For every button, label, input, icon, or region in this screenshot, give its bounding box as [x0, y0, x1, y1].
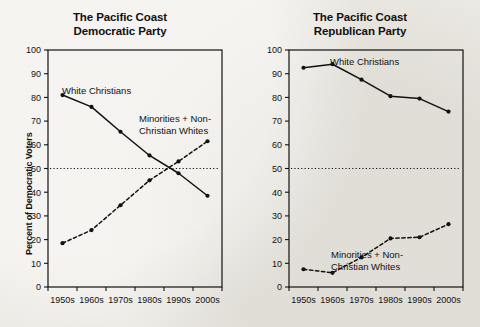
annotation-minorities-line2: Christian Whites [139, 125, 208, 136]
y-tick-label: 0 [277, 282, 282, 292]
data-point-marker [417, 96, 421, 100]
x-tick-label: 1960s [79, 295, 104, 305]
y-tick-label: 10 [272, 259, 282, 269]
y-tick-label: 80 [31, 93, 41, 103]
panel-democratic: The Pacific Coast Democratic Party Perce… [0, 0, 240, 327]
data-point-marker [388, 94, 392, 98]
data-point-marker [359, 78, 363, 82]
y-tick-label: 30 [272, 211, 282, 221]
data-point-marker [176, 159, 180, 163]
y-tick-label: 60 [272, 140, 282, 150]
x-tick-label: 1990s [407, 295, 432, 305]
data-point-marker [147, 178, 151, 182]
data-point-marker [60, 241, 64, 245]
y-tick-label: 80 [272, 93, 282, 103]
data-point-marker [301, 66, 305, 70]
data-point-marker [388, 236, 392, 240]
data-point-marker [417, 235, 421, 239]
data-point-marker [301, 267, 305, 271]
data-point-marker [205, 194, 209, 198]
y-tick-label: 60 [31, 140, 41, 150]
data-point-marker [176, 171, 180, 175]
y-tick-label: 20 [272, 235, 282, 245]
data-point-marker [147, 153, 151, 157]
data-point-marker [446, 110, 450, 114]
series-line-minorities [63, 141, 208, 243]
x-tick-label: 1980s [137, 295, 162, 305]
y-tick-label: 50 [272, 164, 282, 174]
y-tick-label: 100 [26, 45, 41, 55]
x-tick-label: 1970s [349, 295, 374, 305]
annotation-minorities-line1: Minorities + Non- [331, 249, 403, 260]
y-tick-label: 70 [272, 116, 282, 126]
plot-area-republican: 01020304050607080901001950s1960s1970s198… [240, 0, 480, 327]
data-point-marker [205, 139, 209, 143]
y-tick-label: 90 [31, 69, 41, 79]
series-line-white-christians [63, 95, 208, 196]
x-tick-label: 1980s [378, 295, 403, 305]
y-tick-label: 40 [272, 188, 282, 198]
y-tick-label: 100 [267, 45, 282, 55]
series-line-white-christians [304, 64, 449, 111]
x-tick-label: 1960s [320, 295, 345, 305]
data-point-marker [118, 203, 122, 207]
y-tick-label: 20 [31, 235, 41, 245]
y-tick-label: 50 [31, 164, 41, 174]
data-point-marker [89, 105, 93, 109]
y-tick-label: 70 [31, 116, 41, 126]
y-tick-label: 30 [31, 211, 41, 221]
data-point-marker [118, 130, 122, 134]
y-tick-label: 0 [36, 282, 41, 292]
x-tick-label: 1970s [108, 295, 133, 305]
x-tick-label: 1990s [166, 295, 191, 305]
data-point-marker [89, 228, 93, 232]
annotation-minorities-line2: Christian Whites [331, 261, 400, 272]
y-tick-label: 90 [272, 69, 282, 79]
x-tick-label: 1950s [291, 295, 316, 305]
plot-area-democratic: 01020304050607080901001950s1960s1970s198… [0, 0, 240, 327]
annotation-white-christians: White Christians [62, 85, 131, 96]
panel-republican: The Pacific Coast Republican Party Perce… [240, 0, 480, 327]
x-tick-label: 2000s [436, 295, 461, 305]
x-tick-label: 2000s [195, 295, 220, 305]
y-tick-label: 40 [31, 188, 41, 198]
data-point-marker [446, 222, 450, 226]
y-tick-label: 10 [31, 259, 41, 269]
annotation-minorities-line1: Minorities + Non- [139, 113, 211, 124]
x-tick-label: 1950s [50, 295, 75, 305]
annotation-white-christians: White Christians [330, 56, 399, 67]
figure-two-panel-line-charts: The Pacific Coast Democratic Party Perce… [0, 0, 480, 327]
